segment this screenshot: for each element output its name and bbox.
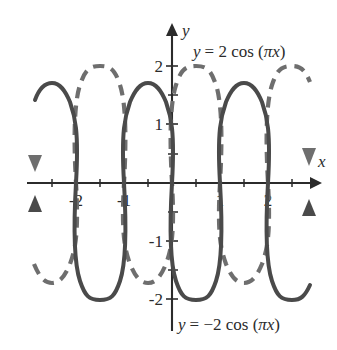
solid-curve-left-arrowhead bbox=[28, 195, 42, 212]
bottom-eq-argument: πx bbox=[258, 315, 275, 334]
x-axis-arrowhead bbox=[310, 177, 322, 189]
top-eq-close: ) bbox=[280, 42, 286, 61]
plot-canvas: x y -2 -1 1 2 bbox=[0, 0, 337, 350]
solid-curve-right-arrowhead bbox=[302, 199, 316, 216]
x-axis-label: x bbox=[317, 152, 326, 171]
bottom-eq-lhs: y bbox=[176, 315, 186, 334]
top-equation-label: y= 2 cos (πx) bbox=[191, 42, 285, 61]
y-tick-label-2: 2 bbox=[155, 57, 164, 76]
y-tick-label--1: -1 bbox=[149, 232, 163, 251]
bottom-equation-label: y= −2 cos (πx) bbox=[176, 315, 280, 334]
bottom-equation-text: y= −2 cos (πx) bbox=[176, 315, 280, 334]
y-axis-arrowhead bbox=[166, 23, 178, 36]
y-tick-label-1: 1 bbox=[155, 115, 164, 134]
top-equation-text: y= 2 cos (πx) bbox=[191, 42, 285, 61]
y-axis-label: y bbox=[180, 21, 190, 40]
top-eq-lhs: y bbox=[191, 42, 201, 61]
bottom-eq-operator: = −2 cos ( bbox=[190, 315, 259, 334]
y-tick-label--2: -2 bbox=[149, 290, 163, 309]
dashed-curve-right-arrowhead bbox=[302, 148, 316, 166]
x-axis-group: x bbox=[27, 152, 326, 189]
cosine-graph-figure: x y -2 -1 1 2 bbox=[0, 0, 337, 350]
dashed-curve-left-arrowhead bbox=[28, 155, 42, 172]
top-eq-argument: πx bbox=[264, 42, 281, 61]
bottom-eq-close: ) bbox=[274, 315, 280, 334]
top-eq-operator: = 2 cos ( bbox=[205, 42, 264, 61]
